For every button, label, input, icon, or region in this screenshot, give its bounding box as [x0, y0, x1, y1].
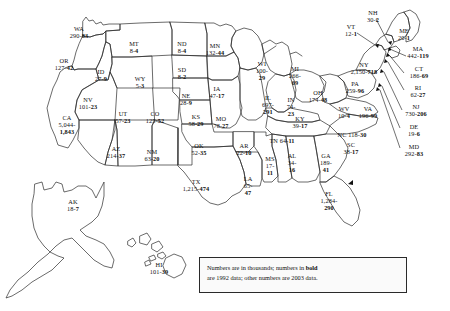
- state-code-nm: NM: [144, 148, 159, 155]
- value-bold-tn: 11: [288, 137, 294, 144]
- value-plain-ut: 57: [115, 117, 122, 124]
- state-label-ct: CT186-69: [410, 65, 428, 79]
- legend-line-2: are 1992 data; other numbers are 2003 da…: [207, 273, 399, 283]
- state-values-ok: 52-35: [191, 149, 206, 156]
- value-plain-ga: 189: [320, 159, 330, 166]
- state-values-vt: 12-1: [345, 30, 357, 37]
- state-code-ky: KY: [292, 115, 307, 122]
- state-values-wy: 5-3: [135, 82, 146, 89]
- state-values-id: 27-9: [95, 75, 107, 82]
- state-values-tx: 1,215-474: [183, 185, 210, 192]
- state-code-nh: NH: [367, 9, 379, 16]
- state-label-de: DE19-6: [408, 123, 420, 137]
- state-label-ks: KS58-29: [188, 113, 203, 127]
- value-plain-tn: 64: [280, 137, 287, 144]
- state-label-ut: UT57-23: [115, 110, 130, 124]
- us-map: WA290-83OR127-42ID27-9MT8-4WY5-3NV101-23…: [0, 0, 450, 311]
- value-bold-oh: 48: [321, 96, 328, 103]
- value-plain-nv: 101: [79, 103, 89, 110]
- state-code-fl: FL: [321, 190, 338, 197]
- state-code-ca: CA: [59, 114, 76, 121]
- state-values-wa: 290-83: [70, 32, 88, 39]
- state-label-sc: SC38-17: [343, 141, 358, 155]
- state-label-ny: NY2,150-718: [351, 61, 378, 75]
- state-code-wa: WA: [70, 25, 88, 32]
- state-label-ms: MS17-11: [265, 155, 274, 176]
- state-code-in: IN: [287, 96, 296, 103]
- state-code-il: IL: [262, 94, 274, 101]
- state-label-wa: WA290-83: [70, 25, 88, 39]
- state-code-ne: NE: [180, 92, 192, 99]
- value-bold-wy: 3: [141, 82, 144, 89]
- state-label-wy: WY5-3: [135, 75, 146, 89]
- state-code-wi: WI: [256, 60, 268, 67]
- value-bold-md: 83: [417, 150, 424, 157]
- state-code-nd: ND: [177, 40, 186, 47]
- state-values-mt: 8-4: [129, 47, 139, 54]
- state-values-nv: 101-23: [79, 103, 97, 110]
- state-values-co: 125-52: [146, 117, 164, 124]
- value-plain-nj: 730: [405, 110, 415, 117]
- value-plain-nh: 30: [367, 16, 374, 23]
- value-bold-il: 291: [263, 108, 273, 115]
- value-plain-in: 74: [287, 103, 294, 110]
- value-plain-ia: 47: [209, 92, 216, 99]
- state-values-al: 34-16: [288, 159, 297, 173]
- state-label-md: MD292-83: [405, 143, 423, 157]
- state-label-nv: NV101-23: [79, 96, 97, 110]
- state-values-nd: 8-4: [177, 47, 186, 54]
- value-plain-or: 127: [55, 64, 65, 71]
- value-plain-nd: 8: [178, 47, 181, 54]
- state-code-ny: NY: [351, 61, 378, 68]
- state-values-ks: 58-29: [188, 120, 203, 127]
- value-bold-ne: 9: [189, 99, 192, 106]
- value-plain-mi: 266: [289, 72, 299, 79]
- legend-bold-word: bold: [306, 264, 318, 271]
- state-values-ca: 5,044-1,843: [59, 121, 76, 135]
- map-legend: Numbers are in thousands; numbers in bol…: [199, 257, 407, 293]
- state-code-nv: NV: [79, 96, 97, 103]
- state-label-az: AZ214-37: [107, 145, 125, 159]
- state-label-id: ID27-9: [95, 68, 107, 82]
- value-plain-wy: 5: [136, 82, 139, 89]
- value-plain-ny: 2,150: [351, 68, 366, 75]
- value-bold-ny: 718: [368, 68, 378, 75]
- value-bold-ca: 1,843: [60, 128, 75, 135]
- state-code-sc: SC: [343, 141, 358, 148]
- state-code-tx: TX: [183, 178, 210, 185]
- state-values-va: 196-99: [359, 112, 377, 119]
- state-code-ut: UT: [115, 110, 130, 117]
- value-plain-ne: 28: [180, 99, 187, 106]
- state-code-or: OR: [55, 57, 73, 64]
- state-label-me: ME20-1: [398, 27, 410, 41]
- value-plain-ks: 58: [188, 120, 195, 127]
- value-plain-oh: 174: [309, 96, 319, 103]
- value-bold-ak: 7: [76, 205, 79, 212]
- value-plain-ar: 22: [236, 149, 243, 156]
- value-bold-la: 47: [245, 189, 252, 196]
- state-values-sc: 38-17: [343, 148, 358, 155]
- value-plain-co: 125: [146, 117, 156, 124]
- state-label-mn: MN132-44: [206, 42, 224, 56]
- state-code-ks: KS: [188, 113, 203, 120]
- value-plain-az: 214: [107, 152, 117, 159]
- value-bold-co: 52: [158, 117, 165, 124]
- value-plain-pa: 259: [346, 87, 356, 94]
- state-label-il: IL697-291: [262, 94, 274, 115]
- state-values-wi: 100-29: [256, 67, 268, 81]
- state-values-ny: 2,150-718: [351, 68, 378, 75]
- value-bold-sd: 2: [183, 73, 186, 80]
- state-label-hi: HI101-39: [150, 261, 168, 275]
- state-values-ak: 18-7: [67, 205, 79, 212]
- state-code-pa: PA: [346, 80, 364, 87]
- state-values-ky: 39-17: [292, 122, 307, 129]
- value-bold-mn: 44: [218, 49, 225, 56]
- state-code-mt: MT: [129, 40, 139, 47]
- state-label-fl: FL1,284-290: [321, 190, 338, 211]
- state-label-va: VA196-99: [359, 105, 377, 119]
- state-values-il: 697-291: [262, 101, 274, 115]
- state-values-nm: 63-20: [144, 155, 159, 162]
- value-plain-ri: 62: [410, 91, 417, 98]
- state-code-wv: WV: [338, 105, 350, 112]
- state-label-nc: NC 118-30: [338, 131, 367, 138]
